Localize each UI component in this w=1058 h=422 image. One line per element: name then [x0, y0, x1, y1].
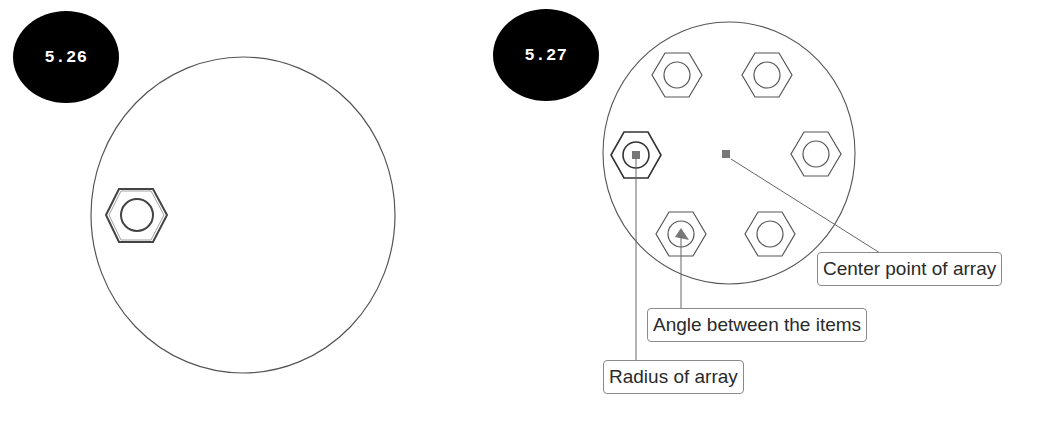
figure-number-label: 5.27 [525, 46, 568, 65]
figure-number-badge: 5.27 [493, 9, 599, 101]
callout-center-point: Center point of array [817, 252, 1002, 286]
callout-angle-between-items: Angle between the items [647, 308, 867, 342]
angle-marker-icon [675, 228, 689, 240]
hex-nut-icon [652, 53, 702, 97]
figure-5-27-panel: 5.27 Center point of array Angle between… [480, 0, 1058, 422]
callout-radius-label: Radius of array [609, 366, 738, 387]
hex-nut-icon [742, 53, 792, 97]
figure-5-26-panel: 5.26 [0, 0, 500, 422]
plate-circle [91, 57, 395, 373]
center-point-leader-line [731, 159, 880, 253]
hex-nut-icon [745, 212, 795, 256]
callout-radius: Radius of array [603, 360, 744, 394]
figure-5-26-drawing [0, 0, 500, 422]
callout-center-point-label: Center point of array [823, 258, 996, 279]
center-point-marker-icon [722, 150, 730, 158]
hex-nut-icon [791, 132, 841, 176]
radius-marker-icon [632, 151, 640, 159]
hex-nut-icon [106, 189, 167, 242]
callout-angle-label: Angle between the items [653, 314, 861, 335]
